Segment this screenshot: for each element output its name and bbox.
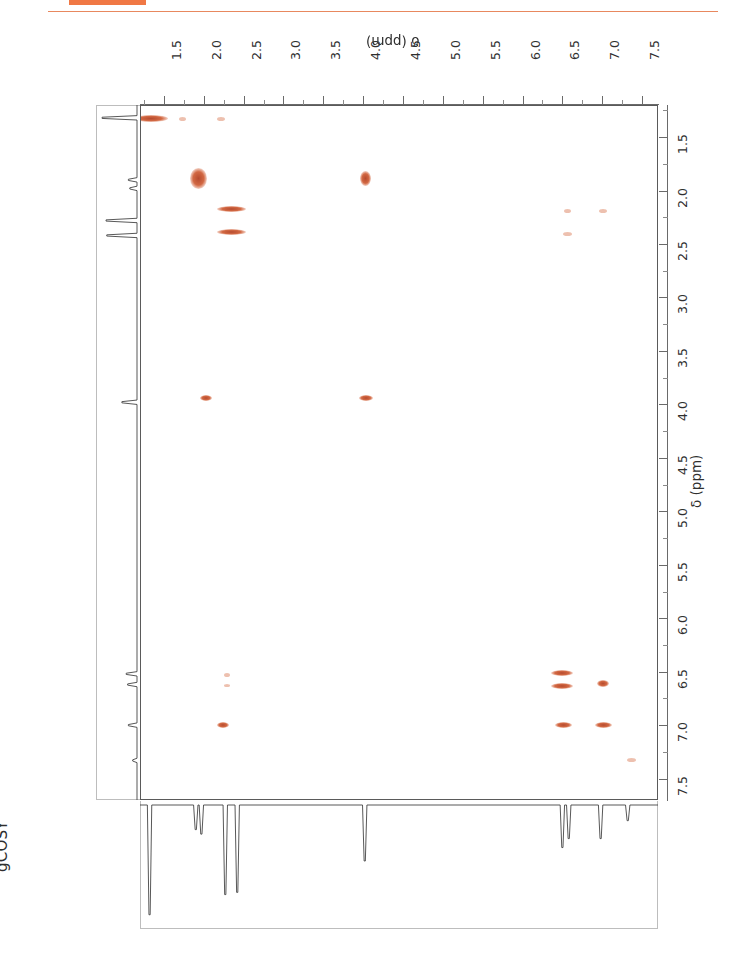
contour-peak — [563, 232, 572, 236]
y-axis-minor-tick — [663, 110, 668, 111]
f1-projection-svg — [96, 105, 140, 800]
y-axis-tick-label: 3.5 — [675, 348, 690, 368]
x-axis-tick-label: 5.5 — [488, 40, 503, 60]
y-axis-tick-label: 7.0 — [675, 722, 690, 742]
f2-projection-svg — [140, 801, 658, 929]
y-axis-tick-label: 6.0 — [675, 615, 690, 635]
x-axis-tick-label: 6.5 — [567, 40, 582, 60]
x-axis-tick-label: 3.5 — [328, 40, 343, 60]
x-axis-tick-label: 7.0 — [607, 40, 622, 60]
y-axis-tick-label: 4.5 — [675, 455, 690, 475]
y-axis-minor-tick — [663, 698, 668, 699]
y-axis-tick-label: 5.5 — [675, 562, 690, 582]
y-axis-tick — [659, 672, 668, 673]
x-axis-tick — [164, 96, 165, 105]
x-axis-tick — [562, 96, 563, 105]
y-axis-tick — [659, 779, 668, 780]
contour-peak — [224, 673, 230, 677]
y-axis-tick — [659, 565, 668, 566]
spectrum-plot-area[interactable] — [140, 105, 658, 800]
y-axis-minor-tick — [663, 324, 668, 325]
f1-projection-path — [102, 105, 137, 800]
x-axis-tick — [602, 96, 603, 105]
y-axis — [659, 105, 661, 801]
x-axis-tick — [642, 96, 643, 105]
y-axis-minor-tick — [663, 217, 668, 218]
y-axis-tick-label: 4.0 — [675, 401, 690, 421]
x-axis-tick-label: 3.0 — [288, 40, 303, 60]
f2-projection-trace — [140, 801, 658, 929]
contour-peak — [224, 684, 230, 687]
f2-projection-path — [140, 805, 658, 915]
contour-peak — [551, 683, 573, 689]
contour-peak — [359, 395, 373, 401]
figure-caption: gCOSY — [0, 752, 11, 872]
y-axis-tick-label: 2.5 — [675, 241, 690, 261]
y-axis-line — [667, 105, 668, 801]
y-axis-tick-label: 5.0 — [675, 508, 690, 528]
x-axis-tick-label: 4.0 — [368, 40, 383, 60]
x-axis-tick — [483, 96, 484, 105]
y-axis-minor-tick — [663, 538, 668, 539]
x-axis-tick — [403, 96, 404, 105]
y-axis-minor-tick — [663, 645, 668, 646]
y-axis-title: δ (ppm) — [688, 455, 704, 508]
y-axis-tick — [659, 244, 668, 245]
contour-peak — [564, 209, 571, 213]
y-axis-minor-tick — [663, 378, 668, 379]
contour-peak — [555, 722, 572, 728]
contour-peak — [200, 395, 212, 401]
x-axis-tick-label: 1.5 — [169, 40, 184, 60]
x-axis-tick-label: 6.0 — [528, 40, 543, 60]
contour-peak — [179, 117, 186, 121]
x-axis-tick — [283, 96, 284, 105]
y-axis-tick — [659, 404, 668, 405]
contour-peak — [217, 206, 246, 212]
x-axis-tick — [204, 96, 205, 105]
x-axis-tick — [363, 96, 364, 105]
contour-peak — [599, 209, 607, 213]
y-axis-minor-tick — [663, 164, 668, 165]
contour-peak — [190, 168, 207, 189]
y-axis-tick-label: 1.5 — [675, 134, 690, 154]
x-axis-tick-label: 2.5 — [249, 40, 264, 60]
x-axis-tick-label: 5.0 — [448, 40, 463, 60]
x-axis-tick-label: 2.0 — [209, 40, 224, 60]
contour-peak — [217, 229, 246, 235]
contour-peak — [627, 758, 636, 762]
y-axis-minor-tick — [663, 271, 668, 272]
y-axis-tick — [659, 511, 668, 512]
contour-peak — [217, 722, 229, 728]
x-axis — [140, 96, 659, 98]
contour-peak — [360, 171, 371, 186]
y-axis-tick — [659, 618, 668, 619]
y-axis-tick — [659, 725, 668, 726]
y-axis-tick — [659, 137, 668, 138]
y-axis-minor-tick — [663, 752, 668, 753]
x-axis-tick-label: 4.5 — [408, 40, 423, 60]
y-axis-minor-tick — [663, 485, 668, 486]
y-axis-tick-label: 3.0 — [675, 295, 690, 315]
y-axis-tick — [659, 458, 668, 459]
contour-peak — [217, 117, 225, 121]
y-axis-tick-label: 7.5 — [675, 776, 690, 796]
header-divider-rule — [48, 11, 718, 12]
f1-projection-trace — [96, 105, 140, 800]
contour-peak — [595, 722, 612, 728]
contour-peak — [551, 670, 573, 676]
y-axis-tick-label: 6.5 — [675, 669, 690, 689]
x-axis-tick — [443, 96, 444, 105]
y-axis-tick-label: 2.0 — [675, 188, 690, 208]
x-axis-tick — [323, 96, 324, 105]
x-axis-tick — [523, 96, 524, 105]
contour-peak — [597, 680, 609, 687]
header-accent-block — [69, 0, 146, 5]
contour-peak — [140, 115, 168, 122]
y-axis-minor-tick — [663, 592, 668, 593]
y-axis-minor-tick — [663, 431, 668, 432]
page-header-band — [0, 0, 731, 14]
y-axis-tick — [659, 191, 668, 192]
y-axis-tick — [659, 351, 668, 352]
x-axis-tick-label: 7.5 — [647, 40, 662, 60]
x-axis-tick — [244, 96, 245, 105]
